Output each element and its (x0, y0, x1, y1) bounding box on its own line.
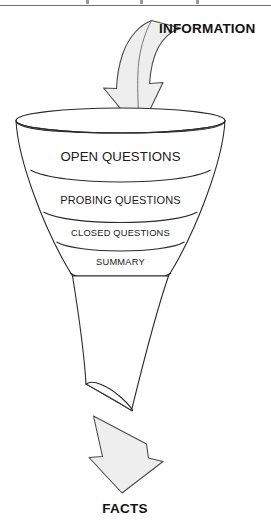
facts-label: FACTS (102, 501, 147, 516)
funnel-stem (73, 276, 169, 411)
stage-label-closed-questions: CLOSED QUESTIONS (71, 228, 170, 238)
stage-label-probing-questions: PROBING QUESTIONS (60, 194, 180, 206)
stage-label-summary: SUMMARY (96, 257, 145, 267)
page-top-rule (0, 5, 271, 6)
down-arrow-icon (89, 416, 163, 493)
stage-label-open-questions: OPEN QUESTIONS (60, 149, 180, 164)
funnel-diagram-canvas: INFORMATION OPEN QUESTIONS PROBING QUEST… (0, 0, 271, 531)
funnel-diagram-figure: INFORMATION OPEN QUESTIONS PROBING QUEST… (0, 0, 271, 531)
information-label: INFORMATION (159, 21, 255, 36)
facts-output-arrow (89, 416, 163, 493)
